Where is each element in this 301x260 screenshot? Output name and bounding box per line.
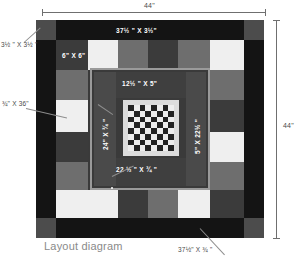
checker-cell [168, 145, 174, 151]
ring-square [210, 40, 244, 70]
mid-left-strip-label: 24" X ¾ " [102, 119, 109, 150]
ring-square [210, 100, 244, 132]
ring-square [56, 132, 88, 162]
top-dimension-line [42, 12, 266, 13]
layout-diagram: 44" 44" 37½ " X 3½" [0, 0, 301, 260]
corner-block-top-left [36, 20, 56, 40]
ring-square [148, 40, 178, 70]
corner-square-label: 3½ " X 3½ " [1, 41, 37, 48]
ring-square [210, 190, 244, 218]
outer-border-right [244, 20, 264, 238]
right-dimension-label: 44" [281, 122, 296, 129]
mid-top-strip-label: 12½ " X 5" [122, 80, 157, 87]
ring-square [210, 132, 244, 162]
ring-square [148, 190, 178, 218]
ring-square [210, 162, 244, 190]
bottom-border-label: 37½" X ¾ " [178, 246, 212, 253]
ring-square [210, 70, 244, 100]
corner-block-bottom-left [36, 218, 56, 238]
ring-square [56, 190, 88, 218]
ring-square [88, 40, 118, 70]
ring-square [88, 190, 118, 218]
ring-square [118, 40, 148, 70]
ring-square [56, 162, 88, 190]
top-border-label: 37½ " X 3½" [116, 27, 157, 34]
mid-right-strip-label: 5" X 22½ " [194, 119, 201, 154]
center-checkerboard-frame [123, 100, 179, 156]
ring-square [56, 70, 88, 100]
top-dimension-tick-left [42, 9, 43, 16]
ring-square [178, 40, 210, 70]
outer-border-bottom [36, 218, 264, 238]
ring-square [118, 190, 148, 218]
leader-dot-bottom [111, 187, 113, 189]
right-dimension-line [276, 20, 277, 238]
outer-border-left [36, 20, 56, 238]
quilt-artwork: 37½ " X 3½" [36, 20, 264, 238]
top-dimension-label: 44" [142, 2, 157, 9]
middle-sashing-frame: 12½ " X 5" 22 ½ " X ¾ " 24" X ¾ " 5" X 2… [90, 68, 210, 190]
corner-block-top-right [244, 20, 264, 40]
checkerboard [128, 105, 174, 151]
ring-square-label: 6" X 6" [62, 52, 85, 59]
top-dimension-tick-right [265, 9, 266, 16]
right-dimension-tick-top [273, 20, 280, 21]
ring-square [178, 190, 210, 218]
left-strip-label: ¾" X 36" [2, 100, 29, 107]
right-dimension-tick-bottom [273, 238, 280, 239]
corner-block-bottom-right [244, 218, 264, 238]
diagram-caption: Layout diagram [44, 240, 123, 252]
